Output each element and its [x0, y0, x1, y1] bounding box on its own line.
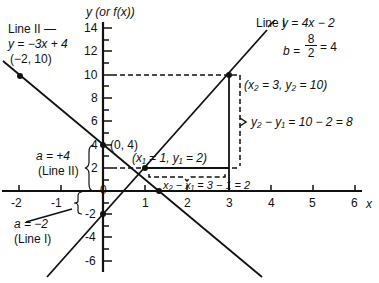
y-tick-label: 14: [84, 22, 97, 34]
x-tick-label: 3: [226, 197, 233, 209]
run-label: x₂ − x₁ = 3 − 1 = 2: [163, 178, 250, 192]
point-2-label: (x₂ = 3, y₂ = 10): [244, 78, 327, 92]
rise-label: y₂ − y₁ = 10 − 2 = 8: [251, 115, 353, 129]
x-axis-label: x: [366, 197, 372, 211]
y-tick-label: -2: [85, 208, 96, 220]
y-tick-label: -4: [85, 231, 96, 243]
line-1-intercept-label: a = −2: [14, 217, 48, 231]
line-2-intercept-line: (Line II): [38, 164, 79, 178]
line-1-equation: y = 4x − 2: [282, 16, 335, 30]
line-2-name: Line II —: [8, 22, 56, 36]
line-2-intercept-label: a = +4: [36, 149, 70, 163]
y-tick-label: -6: [85, 255, 96, 267]
x-tick-label: 6: [351, 197, 358, 209]
point-1-label: (x₁ = 1, y₁ = 2): [132, 151, 207, 165]
x-tick-label: -2: [11, 197, 22, 209]
dashed-guides: [112, 75, 240, 181]
line-1-intercept-line: (Line I): [14, 232, 51, 246]
line-1-slope-result: = 4: [320, 40, 337, 54]
line-1-slope-b: b =: [283, 44, 300, 58]
line-1-slope-denominator: 2: [305, 47, 317, 59]
y-tick-label: 12: [84, 45, 97, 57]
x-tick-label: -1: [51, 197, 62, 209]
line-2-equation: y = −3x + 4: [8, 37, 68, 51]
x-tick-label: 4: [268, 197, 275, 209]
y-tick-label: 10: [84, 69, 97, 81]
x-tick-label: 0: [100, 184, 107, 196]
rise-brace: [240, 118, 246, 126]
line-2-point-label: (−2, 10): [10, 52, 52, 66]
x-tick-label: 1: [142, 197, 149, 209]
y-tick-label: 4: [91, 139, 98, 151]
y-axis-label: y (or f(x)): [86, 5, 135, 19]
line-1-slope-numerator: 8: [305, 33, 317, 46]
line-2-intercept-point: (0, 4): [110, 138, 138, 152]
y-tick-label: 8: [91, 92, 98, 104]
slope-triangle: [145, 75, 229, 191]
line-1-name: Line I: [256, 16, 285, 30]
intercept-brace-line-1: [74, 192, 82, 214]
x-tick-label: 2: [184, 197, 191, 209]
y-tick-label: 2: [91, 162, 98, 174]
y-tick-label: 6: [91, 115, 98, 127]
x-tick-label: 5: [309, 197, 316, 209]
